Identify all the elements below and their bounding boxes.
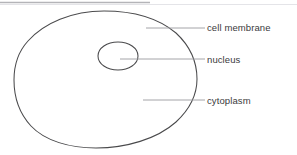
cell-diagram: cell membrane nucleus cytoplasm xyxy=(0,0,297,155)
label-cell-membrane: cell membrane xyxy=(207,22,271,33)
nucleus-outline xyxy=(98,42,138,70)
label-nucleus: nucleus xyxy=(207,54,240,65)
cell-membrane-outline xyxy=(14,11,197,148)
label-cytoplasm: cytoplasm xyxy=(207,95,251,106)
